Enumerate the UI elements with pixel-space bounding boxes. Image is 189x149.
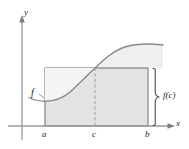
integral-mvt-figure: y x a c b f f(c) <box>0 0 189 149</box>
height-brace <box>153 69 159 126</box>
x-tick-label-a: a <box>42 130 47 139</box>
curve-label-f: f <box>31 88 34 98</box>
x-axis-label: x <box>176 119 180 128</box>
y-axis-label: y <box>24 8 28 17</box>
x-tick-label-c: c <box>92 130 96 139</box>
brace-shape <box>153 69 159 126</box>
rectangle-height-label: f(c) <box>163 91 176 100</box>
f-label-leader <box>39 94 44 98</box>
f-leader-line <box>39 94 44 98</box>
figure-canvas <box>0 0 189 149</box>
y-axis <box>19 15 25 140</box>
x-axis-arrow-icon <box>168 123 176 129</box>
x-tick-label-b: b <box>145 130 150 139</box>
